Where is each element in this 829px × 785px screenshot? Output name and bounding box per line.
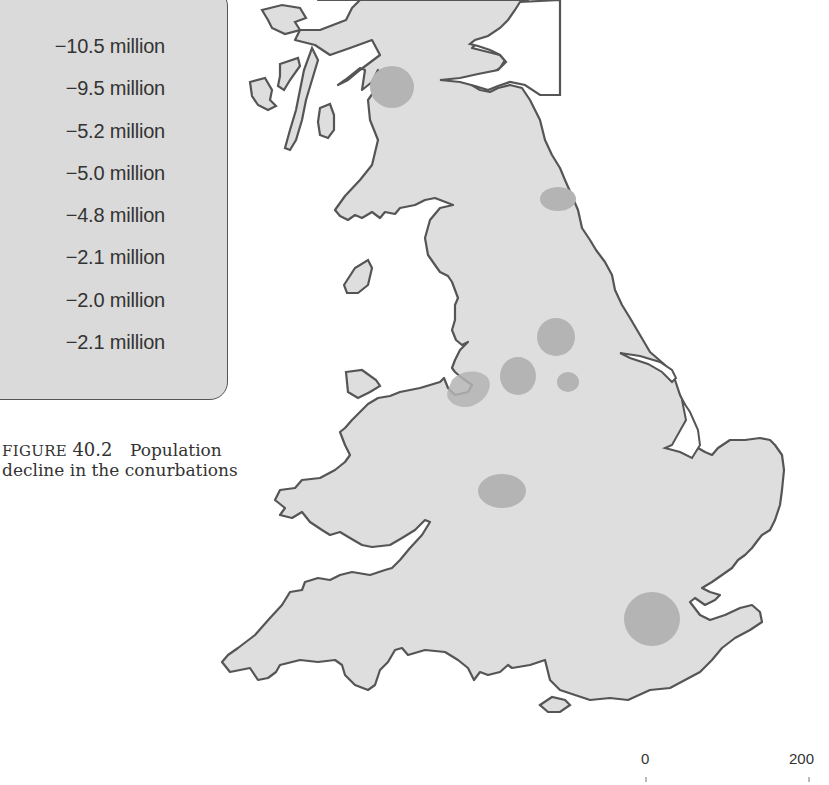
conurbation-greater-london: [624, 592, 680, 646]
scale-start-label: 0: [641, 750, 649, 767]
legend-list: −10.5 million −9.5 million −5.2 million …: [55, 25, 165, 363]
legend-item: −4.8 million: [55, 194, 165, 236]
island-isle-of-wight: [540, 697, 570, 712]
island-islay: [250, 78, 276, 110]
island-isle-of-man: [344, 260, 372, 293]
legend-item: −2.1 million: [55, 321, 165, 363]
conurbation-south-yorkshire: [557, 372, 579, 392]
caption-line-1: FIGURE 40.2 Population: [2, 440, 238, 461]
legend-item: −2.1 million: [55, 236, 165, 278]
mainland-landmass: [222, 0, 784, 700]
caption-title-line2: decline in the conurbations: [2, 461, 238, 480]
conurbation-glasgow: [370, 66, 414, 108]
figure-number: 40.2: [72, 439, 112, 460]
scale-end-label: 200: [789, 750, 814, 767]
legend-item: −2.0 million: [55, 279, 165, 321]
island-mull: [262, 5, 306, 34]
conurbation-west-yorkshire: [537, 318, 575, 356]
legend-item: −5.2 million: [55, 110, 165, 152]
island-jura: [278, 58, 300, 90]
figure-caption: FIGURE 40.2 Population decline in the co…: [2, 440, 238, 480]
conurbation-tyneside: [540, 187, 576, 211]
island-anglesey: [346, 370, 380, 398]
island-arran: [318, 104, 334, 138]
legend-item: −10.5 million: [55, 25, 165, 67]
conurbation-greater-manchester: [500, 357, 536, 395]
caption-title-line1: Population: [130, 440, 222, 460]
legend-item: −5.0 million: [55, 152, 165, 194]
figure-label: FIGURE: [2, 442, 67, 460]
conurbation-west-midlands: [478, 474, 526, 508]
legend-panel: −10.5 million −9.5 million −5.2 million …: [0, 0, 228, 400]
legend-item: −9.5 million: [55, 67, 165, 109]
